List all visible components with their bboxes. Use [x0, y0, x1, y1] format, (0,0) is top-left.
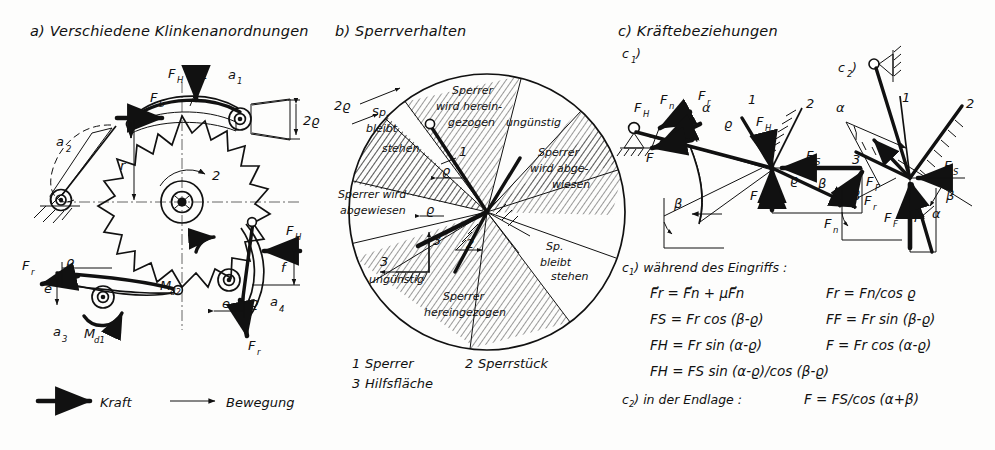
panel-a-rho-a3: ϱ — [66, 254, 75, 269]
c1-beta2: β — [817, 176, 826, 191]
key-2-text: Sperrstück — [478, 356, 548, 371]
radius-dimension: r — [120, 120, 134, 200]
c1-fn-sub: n — [669, 101, 674, 111]
panel-a-fs-label: F — [150, 90, 158, 105]
legend-label-bewegung: Bewegung — [226, 395, 295, 410]
panel-a-f-small: f — [281, 260, 288, 275]
panel-c-header: c) Kräftebeziehungen — [618, 23, 778, 39]
sector-label-4-line1: Sp. — [372, 106, 389, 119]
c1-fr2-sub: r — [873, 202, 877, 212]
sector-label-5-line1: Sperrer — [443, 290, 486, 303]
sector-label-2: ungünstig — [506, 116, 561, 129]
panel-a-fr-sub-left: r — [31, 267, 35, 277]
sector-label-3-line1: Sperrer — [538, 146, 581, 159]
panel-c1-tag-paren: ) — [635, 46, 641, 61]
panel-b-header: b) Sperrverhalten — [335, 23, 467, 39]
sector-label-5-line2: hereingezogen — [424, 306, 506, 319]
c2-beta-gauge-label: β — [851, 188, 860, 203]
panel-b: b) Sperrverhalten — [334, 23, 625, 391]
c1-beta-gauge: β — [664, 168, 762, 248]
panel-a-fs-sub: S — [159, 99, 165, 109]
c2-fs-sub: S — [953, 167, 959, 177]
panel-a-fh-label: F — [168, 66, 176, 81]
pawl-a2: a 2 — [34, 125, 116, 223]
formula-c2: F = FS/cos (α+β) — [804, 391, 919, 407]
formula-row-full: FH = FS sin (α-ϱ)/cos (β-ϱ) — [650, 363, 829, 379]
sector-label-3-line2: wird abge- — [530, 162, 589, 175]
panel-a: a) Verschiedene Klinkenanordnungen 2 — [22, 23, 320, 357]
panel-a-rho-a4: ϱ — [250, 295, 259, 310]
panel-a-fr-sub-right: r — [257, 347, 261, 357]
sector-label-4-line2: bleibt — [366, 122, 398, 135]
legend-item-bewegung: Bewegung — [170, 395, 295, 410]
c1-ff-label: F — [750, 188, 758, 203]
sector-label-1-line3: gezogen — [448, 116, 495, 129]
sector-label-1-line1: Sperrer — [452, 84, 495, 97]
c1-fn2-sub: n — [833, 225, 838, 235]
formula-title-c2: c2) in der Endlage : — [622, 392, 742, 409]
panel-a-variant-a3: a — [53, 324, 61, 339]
formula-row-1-left: FS = Fr cos (β-ϱ) — [650, 311, 763, 327]
c1-fh2-sub: H — [765, 123, 772, 133]
panel-a-e-right: e — [222, 296, 230, 311]
sector-label-3-line3: wiesen — [552, 178, 590, 191]
sector-label-7-line2: abgewiesen — [340, 204, 406, 217]
formula-row-1-right: FF = Fr sin (β-ϱ) — [826, 311, 935, 327]
c1-fs-label: F — [806, 148, 814, 163]
force-fh-top: F H — [168, 66, 196, 100]
c1-fn-label: F — [660, 92, 668, 107]
c1-beta-label: β — [673, 196, 682, 211]
c2-num-3: 3 — [852, 152, 860, 167]
panel-c2-tag-paren: ) — [851, 60, 857, 75]
c1-fs-sub: S — [815, 157, 821, 167]
sector-label-8-line1: Sp. — [546, 240, 563, 253]
figure-root: a) Verschiedene Klinkenanordnungen 2 — [0, 0, 995, 450]
sector-label-8-line3: stehen — [551, 270, 589, 283]
c2-alpha-label: α — [836, 100, 845, 115]
key-2-num: 2 — [465, 356, 473, 371]
sector-label-1-line2: wird herein- — [436, 100, 502, 113]
panel-a-md2-sub: d2 — [170, 287, 181, 297]
sector-label-7-line1: Sperrer wird — [338, 188, 407, 201]
c2-num-1: 1 — [902, 90, 910, 105]
formula-row-0-left: F⃗r = F⃗n + μF⃗n — [650, 285, 744, 301]
panel-a-variant-a1-sub: 1 — [237, 76, 242, 86]
panel-a-md1-sub: d1 — [94, 335, 105, 345]
formula-row-0-right: Fr = Fn/cos ϱ — [826, 285, 916, 301]
key-1-num: 1 — [352, 356, 360, 371]
key-3-num: 3 — [352, 376, 360, 391]
panel-b-number-2: 2 — [466, 236, 474, 251]
legend-label-kraft: Kraft — [100, 395, 132, 410]
c2-ff-sub: F — [893, 219, 898, 229]
c2-fs-label: F — [944, 158, 952, 173]
panel-a-variant-a1: a — [228, 67, 236, 82]
ratchet-wheel: 2 — [98, 116, 270, 287]
panel-b-rho-1: ϱ — [442, 163, 451, 178]
panel-a-variant-a2-sub: 2 — [66, 144, 71, 154]
panel-a-wheel-number: 2 — [212, 168, 220, 183]
formula-title-c1: c1) während des Eingriffs : — [622, 260, 787, 277]
formula-row-2-right: F = Fr cos (α-ϱ) — [826, 337, 931, 353]
c1-f-label: F — [646, 150, 654, 165]
c1-alpha: α — [702, 100, 711, 115]
c1-fh-sub: H — [643, 109, 650, 119]
c1-num-1: 1 — [748, 92, 756, 107]
panel-a-fh-label-right: F — [286, 223, 294, 238]
formula-row-2-left: FH = Fr sin (α-ϱ) — [650, 337, 762, 353]
panel-c1-tag: c — [622, 46, 629, 61]
panel-c2-tag: c — [838, 60, 845, 75]
c1-ff2-label: F — [866, 174, 874, 189]
panel-b-rho-2: ϱ — [426, 202, 435, 217]
panel-a-fr-label-left: F — [22, 258, 30, 273]
panel-b-2rho-label: 2ϱ — [334, 98, 351, 113]
panel-a-variant-a2: a — [56, 134, 64, 149]
c1-fh2-label: F — [756, 114, 764, 129]
sector-label-6: ungünstig — [369, 273, 424, 286]
panel-b-key: 1 Sperrer 2 Sperrstück 3 Hilfsfläche — [352, 356, 548, 391]
c2-ff-label: F — [884, 210, 892, 225]
key-3-text: Hilfsfläche — [365, 376, 433, 391]
panel-a-variant-a4-sub: 4 — [279, 304, 284, 314]
panel-b-number-1: 1 — [459, 144, 467, 159]
panel-c-formulas: c1) während des Eingriffs : F⃗r = F⃗n + … — [622, 260, 935, 409]
legend: Kraft Bewegung — [38, 395, 295, 410]
